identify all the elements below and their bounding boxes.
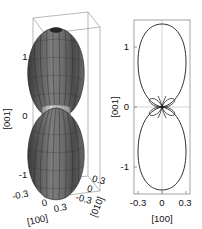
axis-x2d-tick-m03: -0.3	[130, 197, 146, 208]
axis-z-tick-0: 0	[22, 110, 27, 121]
axis-y2d-tick-m1: -1	[121, 161, 129, 172]
surface-lobe-lower	[26, 107, 86, 202]
plot-2d-ticks	[134, 47, 186, 194]
axis-x-label-3d: [100]	[26, 212, 49, 227]
axis-z-tick-1: 1	[22, 51, 27, 62]
axis-y-label-2d: [001]	[109, 96, 120, 117]
plot-3d-svg: 1 0 -1 [001] -0.3 0 0.3 [100] 0.3 0 -0.3…	[0, 0, 112, 229]
plot-2d-svg: 1 0 -1 [001] -0.3 0 0.3 [100]	[112, 0, 202, 229]
lobe-top-dimple	[50, 28, 62, 33]
axis-y-ticks-2d: 1 0 -1	[121, 41, 129, 172]
axis-y2d-tick-1: 1	[124, 41, 129, 52]
axis-x-tick-03: 0.3	[53, 201, 68, 215]
axis-z-ticks: 1 0 -1	[19, 51, 28, 180]
axis-z-label-3d: [001]	[1, 108, 12, 129]
figure-root: 1 0 -1 [001] -0.3 0 0.3 [100] 0.3 0 -0.3…	[0, 0, 202, 229]
axis-x2d-tick-03: 0.3	[178, 197, 191, 208]
axis-x-label-2d: [100]	[151, 213, 172, 224]
panel-2d-cross-section: 1 0 -1 [001] -0.3 0 0.3 [100]	[112, 0, 202, 229]
axis-y2d-tick-0: 0	[124, 101, 129, 112]
axis-x-ticks-2d: -0.3 0 0.3	[130, 197, 192, 208]
axis-x-tick-m03: -0.3	[11, 187, 29, 201]
axis-x2d-tick-0: 0	[159, 197, 164, 208]
panel-3d-surface: 1 0 -1 [001] -0.3 0 0.3 [100] 0.3 0 -0.3…	[0, 0, 112, 229]
axis-z-tick-m1: -1	[19, 169, 27, 180]
axis-x-tick-0: 0	[41, 197, 48, 209]
